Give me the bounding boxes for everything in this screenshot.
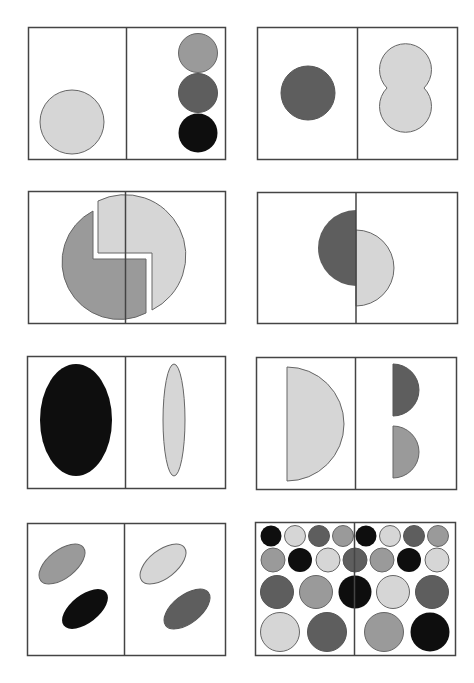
light-thin-ellipse: [163, 364, 185, 476]
panel-7: [28, 524, 226, 656]
mid-tilted-ellipse: [32, 536, 92, 591]
dark-semicircle: [318, 210, 356, 286]
black-tilted-ellipse: [55, 581, 115, 636]
dark-circle: [179, 74, 218, 113]
light-half-disc: [287, 367, 344, 481]
light-tilted-ellipse: [133, 536, 193, 591]
dark-half-disc: [393, 364, 419, 416]
panel-5: [28, 357, 226, 489]
panel-6: [257, 358, 457, 490]
panel-1: [29, 28, 226, 160]
mid-half-disc: [393, 426, 419, 478]
panel-4: [258, 193, 458, 324]
black-circle: [179, 114, 218, 153]
dark-tilted-ellipse: [157, 581, 217, 636]
panel-2: [258, 28, 458, 160]
mid-circle: [179, 34, 218, 73]
dark-circle: [281, 66, 335, 120]
light-semicircle: [356, 230, 394, 306]
panel-3: [29, 192, 226, 324]
black-ellipse: [40, 364, 112, 476]
figure-eight-shape: [380, 44, 432, 133]
light-circle: [40, 90, 104, 154]
panel-8: [256, 523, 456, 656]
puzzle-canvas: [0, 0, 474, 683]
